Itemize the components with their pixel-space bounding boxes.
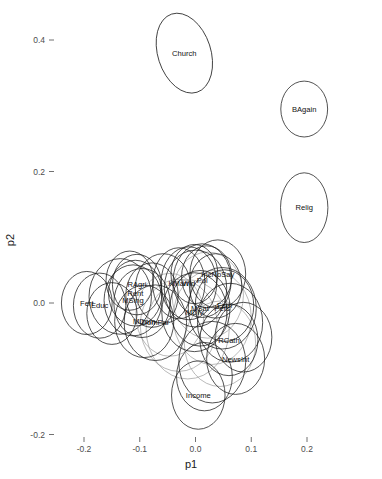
y-tick-label: 0.2 — [33, 167, 45, 177]
scatter-plot-figure: ChurchBAgainReligFertEducRAgriRentMSingM… — [0, 0, 382, 479]
point-label: Wid — [182, 279, 195, 288]
y-tick-label: 0.4 — [33, 35, 45, 45]
x-axis: -0.2-0.10.00.10.2 — [77, 437, 314, 454]
x-tick-label: -0.1 — [132, 444, 147, 454]
point-label: MSing — [122, 296, 144, 305]
point-label: Church — [172, 49, 196, 58]
point-label: Pers — [214, 304, 230, 313]
point-label: NewsInt — [222, 355, 250, 364]
x-tick-label: 0.2 — [301, 444, 313, 454]
point-label: MDiv — [186, 308, 203, 317]
label-layer: ChurchBAgainReligFertEducRAgriRentMSingM… — [80, 49, 316, 400]
point-label: Educ — [91, 301, 109, 310]
x-tick-label: 0.0 — [190, 444, 202, 454]
point-label: DomPar — [141, 318, 169, 327]
x-tick-label: -0.2 — [77, 444, 92, 454]
y-tick-label: -0.2 — [30, 430, 45, 440]
point-label: RCath — [218, 336, 240, 345]
y-axis: 0.40.20.0-0.2 — [30, 35, 54, 440]
point-label: IncNoSay — [201, 270, 234, 279]
x-tick-label: 0.1 — [245, 444, 257, 454]
ellipse-layer — [61, 6, 327, 429]
point-label: BAgain — [292, 105, 317, 114]
confidence-ellipse — [177, 342, 233, 410]
y-axis-title: p2 — [4, 234, 16, 246]
plot-canvas: ChurchBAgainReligFertEducRAgriRentMSingM… — [0, 0, 382, 479]
point-label: Relig — [296, 203, 313, 212]
point-label: Income — [186, 391, 211, 400]
x-axis-title: p1 — [185, 458, 197, 470]
y-tick-label: 0.0 — [33, 298, 45, 308]
